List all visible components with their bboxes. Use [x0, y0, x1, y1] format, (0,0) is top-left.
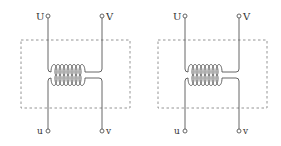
label-U-right: U: [173, 11, 181, 22]
label-v-left: v: [105, 126, 112, 136]
secondary-coil-left: [51, 75, 99, 86]
terminal-u-left: [46, 129, 50, 133]
primary-coil-right: [188, 65, 236, 76]
secondary-coil-right: [188, 75, 236, 86]
terminal-U-left: [46, 14, 50, 18]
transformer-left: [21, 14, 130, 133]
terminal-u-right: [183, 129, 187, 133]
primary-coil-left: [51, 65, 99, 76]
terminal-v-right: [237, 129, 241, 133]
label-u-left: u: [37, 126, 43, 136]
label-U-left: U: [36, 11, 44, 22]
label-v-right: v: [242, 126, 249, 136]
transformer-right: [158, 14, 267, 133]
label-V-right: V: [242, 11, 251, 22]
label-V-left: V: [105, 11, 114, 22]
terminal-V-left: [100, 14, 104, 18]
terminal-v-left: [100, 129, 104, 133]
label-u-right: u: [174, 126, 180, 136]
terminal-V-right: [237, 14, 241, 18]
terminal-U-right: [183, 14, 187, 18]
transformer-diagram: U V u v U V u v: [0, 0, 281, 146]
